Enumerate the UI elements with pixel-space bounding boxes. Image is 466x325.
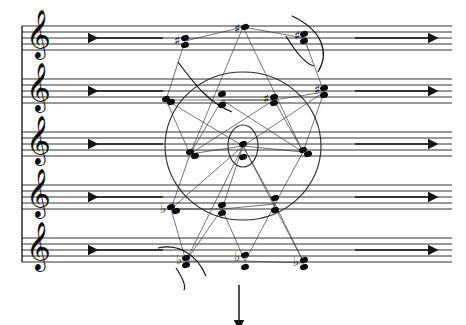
treble-clef: 𝄞 (26, 221, 51, 272)
treble-clef: 𝄞 (26, 9, 51, 60)
notehead (240, 251, 250, 259)
lattice-edge (275, 152, 303, 204)
chord-s3-b (238, 140, 248, 161)
notehead (180, 34, 190, 42)
slur-staff5-hook (176, 268, 185, 290)
treble-clef: 𝄞 (26, 62, 51, 113)
lattice-edge (243, 146, 275, 204)
notes-group: ♯♯♯♯♯♭♭♭♭ (160, 21, 329, 271)
sharp-accidental: ♯ (314, 82, 320, 97)
notehead (238, 140, 248, 148)
notehead (217, 201, 227, 209)
chord-s5-a: ♭ (176, 252, 191, 269)
notehead (319, 91, 329, 99)
score-canvas: 𝄞𝄞𝄞𝄞𝄞 ♯♯♯♯♯♭♭♭♭ (0, 0, 466, 325)
lattice-edge (190, 100, 274, 154)
sharp-accidental: ♯ (294, 28, 300, 43)
chord-s5-b: ♭ (234, 249, 250, 271)
flat-accidental: ♭ (293, 254, 299, 269)
lattice-edge (166, 100, 190, 154)
notehead (180, 41, 190, 49)
lattice-edge (243, 146, 304, 263)
notehead (270, 206, 280, 214)
chord-s1-b: ♯ (234, 21, 250, 36)
flat-accidental: ♭ (176, 252, 182, 267)
notehead (299, 263, 309, 271)
lattice-edge (166, 100, 243, 146)
flat-accidental: ♭ (160, 201, 166, 216)
sharp-accidental: ♯ (234, 21, 240, 36)
notehead (240, 263, 250, 271)
sharp-accidental: ♯ (263, 91, 269, 106)
treble-clef: 𝄞 (26, 168, 51, 219)
notehead (299, 30, 309, 38)
notehead (238, 153, 248, 161)
lattice-edge (222, 204, 275, 209)
chord-s2-b (217, 90, 227, 109)
flat-accidental: ♭ (234, 249, 240, 264)
chord-s1-a: ♯ (174, 33, 190, 49)
clefs-group: 𝄞𝄞𝄞𝄞𝄞 (26, 9, 51, 272)
treble-clef: 𝄞 (26, 115, 51, 166)
chord-s2-c: ♯ (263, 91, 279, 107)
lattice-edge (243, 146, 303, 152)
lattice-edge (245, 204, 275, 261)
lattice-edge (190, 100, 222, 154)
lattice-edge (186, 209, 222, 261)
score-page: 𝄞𝄞𝄞𝄞𝄞 ♯♯♯♯♯♭♭♭♭ (0, 0, 466, 325)
chord-s1-c: ♯ (294, 28, 309, 45)
sharp-accidental: ♯ (174, 33, 180, 48)
lattice-edge (190, 27, 243, 154)
